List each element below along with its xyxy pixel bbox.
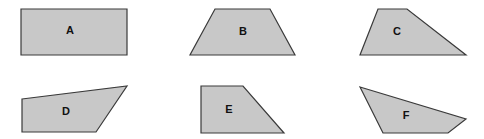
shape-f: F bbox=[360, 87, 466, 133]
shape-e: E bbox=[201, 86, 284, 133]
shape-d-label: D bbox=[62, 105, 70, 117]
shape-b: B bbox=[190, 9, 295, 55]
shape-c: C bbox=[360, 9, 466, 55]
shape-a-label: A bbox=[66, 24, 74, 36]
shape-b-label: B bbox=[239, 25, 247, 37]
shape-a-polygon bbox=[21, 9, 127, 55]
shape-a: A bbox=[21, 9, 127, 55]
shape-e-polygon bbox=[201, 86, 284, 133]
shape-c-polygon bbox=[360, 9, 466, 55]
shape-d: D bbox=[22, 86, 127, 132]
shape-d-polygon bbox=[22, 86, 127, 132]
shape-c-label: C bbox=[393, 25, 401, 37]
shapes-diagram: A B C D E F bbox=[0, 0, 484, 139]
shape-f-polygon bbox=[360, 87, 466, 133]
shape-e-label: E bbox=[225, 103, 232, 115]
shape-f-label: F bbox=[403, 109, 410, 121]
